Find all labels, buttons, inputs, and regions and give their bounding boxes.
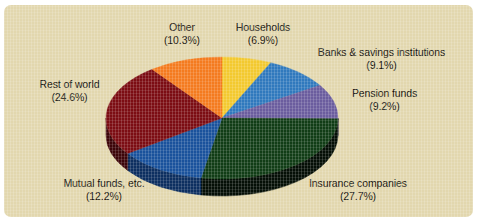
- slice-label-other-pct: (10.3%): [146, 34, 218, 47]
- slice-label-insurance-name: Insurance companies: [288, 177, 428, 190]
- slice-label-banks-pct: (9.1%): [294, 59, 469, 72]
- slice-label-mutual: Mutual funds, etc. (12.2%): [39, 177, 169, 202]
- slice-label-households-pct: (6.9%): [218, 34, 308, 47]
- slice-label-other: Other (10.3%): [146, 21, 218, 46]
- slice-label-mutual-pct: (12.2%): [39, 190, 169, 203]
- slice-label-restofworld: Rest of world (24.6%): [17, 78, 122, 103]
- slice-label-other-name: Other: [146, 21, 218, 34]
- slice-label-restofworld-name: Rest of world: [17, 78, 122, 91]
- chart-panel: Other (10.3%) Households (6.9%) Banks & …: [4, 5, 473, 217]
- slice-label-insurance: Insurance companies (27.7%): [288, 177, 428, 202]
- pie-slices: [106, 57, 338, 196]
- pie-chart-figure: Other (10.3%) Households (6.9%) Banks & …: [0, 0, 477, 223]
- slice-label-restofworld-pct: (24.6%): [17, 91, 122, 104]
- slice-label-pension-pct: (9.2%): [322, 100, 447, 113]
- slice-label-households-name: Households: [218, 21, 308, 34]
- slice-label-pension-name: Pension funds: [322, 87, 447, 100]
- slice-label-insurance-pct: (27.7%): [288, 190, 428, 203]
- slice-label-banks-name: Banks & savings institutions: [294, 46, 469, 59]
- slice-label-banks: Banks & savings institutions (9.1%): [294, 46, 469, 71]
- slice-label-households: Households (6.9%): [218, 21, 308, 46]
- slice-label-pension: Pension funds (9.2%): [322, 87, 447, 112]
- slice-label-mutual-name: Mutual funds, etc.: [39, 177, 169, 190]
